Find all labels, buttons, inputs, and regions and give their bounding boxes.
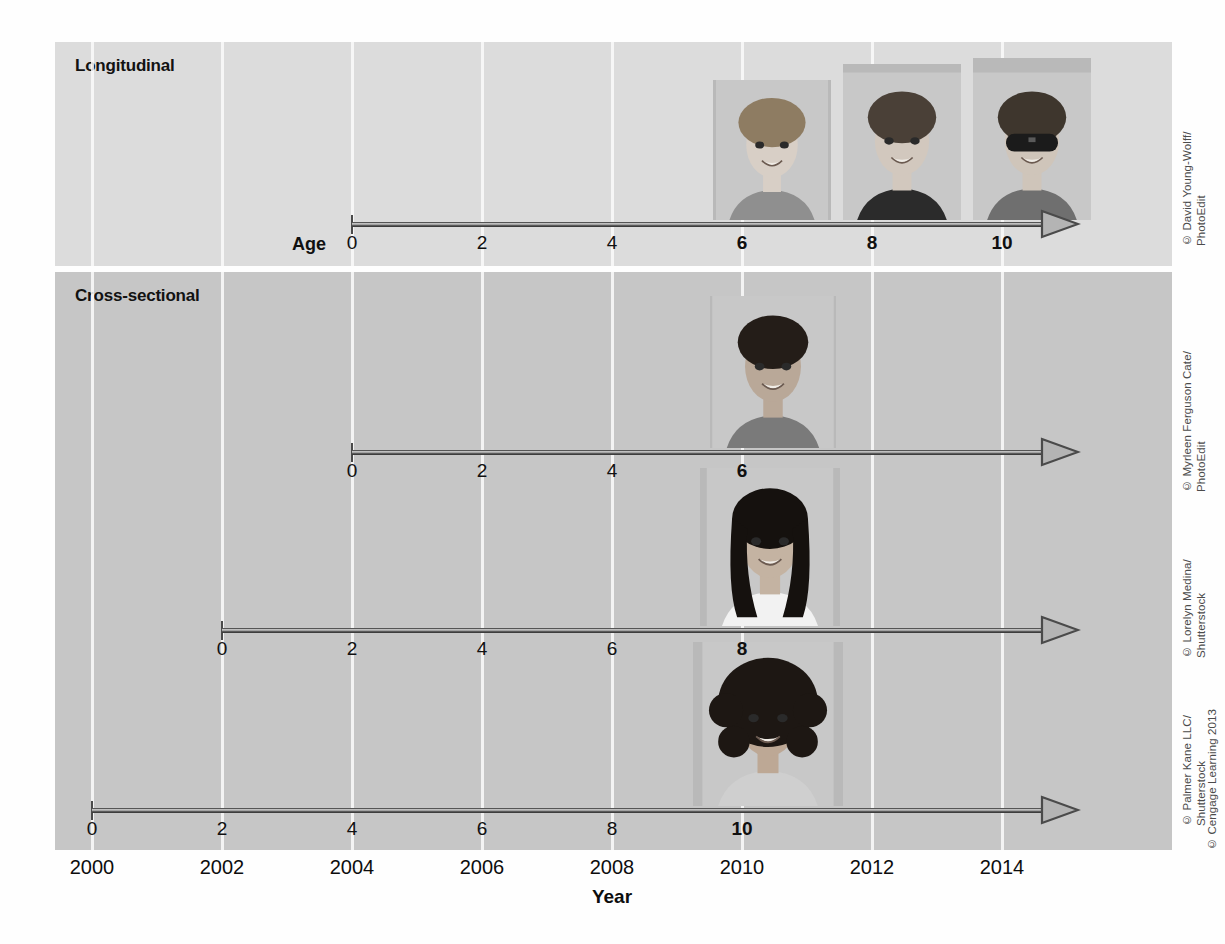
year-tick-2000: 2000 [70, 856, 115, 879]
figure-canvas: Longitudinal 0246810Age Cross-sectional … [0, 0, 1225, 944]
age-tick-8: 8 [867, 232, 878, 254]
gridline-year-2006 [481, 272, 484, 850]
credit-publisher: © Cengage Learning 2013 [1205, 680, 1219, 850]
timeline-arrow-icon [1039, 613, 1081, 647]
photo-child-a [710, 296, 836, 448]
timeline-2002 [222, 626, 1067, 635]
panel-cross-sectional: Cross-sectional 0246024680246810 [55, 272, 1172, 850]
year-tick-2006: 2006 [460, 856, 505, 879]
timeline-bar [352, 222, 1041, 227]
year-tick-2014: 2014 [980, 856, 1025, 879]
age-tick-0: 0 [347, 460, 358, 482]
year-tick-2002: 2002 [200, 856, 245, 879]
gridline-year-2004 [351, 272, 354, 850]
photo-child-b [700, 468, 840, 626]
age-tick-10: 10 [731, 818, 752, 840]
gridline-year-2000 [91, 272, 94, 850]
gridline-year-2008 [611, 272, 614, 850]
year-axis-title: Year [592, 886, 632, 908]
gridline-year-2014 [1001, 272, 1004, 850]
age-tick-2: 2 [477, 232, 488, 254]
age-tick-6: 6 [737, 232, 748, 254]
age-tick-4: 4 [477, 638, 488, 660]
photo-boy-8 [843, 64, 961, 220]
age-tick-6: 6 [607, 638, 618, 660]
age-tick-4: 4 [607, 232, 618, 254]
gridline-year-2002 [221, 42, 224, 266]
gridline-year-2002 [221, 272, 224, 850]
age-tick-2: 2 [477, 460, 488, 482]
photo-child-c [693, 642, 843, 806]
year-tick-2010: 2010 [720, 856, 765, 879]
timeline-2000 [92, 806, 1067, 815]
age-tick-10: 10 [991, 232, 1012, 254]
age-tick-0: 0 [217, 638, 228, 660]
age-tick-4: 4 [607, 460, 618, 482]
timeline-bar [222, 628, 1041, 633]
age-tick-6: 6 [737, 460, 748, 482]
age-tick-4: 4 [347, 818, 358, 840]
credit-cross-2: © Lorelyn Medina/ Shutterstock [1180, 508, 1209, 658]
gridline-year-2012 [871, 272, 874, 850]
credit-longitudinal: © David Young-Wolff/ PhotoEdit [1180, 96, 1209, 246]
age-tick-6: 6 [477, 818, 488, 840]
timeline-bar [352, 450, 1041, 455]
timeline-arrow-icon [1039, 207, 1081, 241]
panel-longitudinal: Longitudinal 0246810Age [55, 42, 1172, 266]
photo-boy-10 [973, 58, 1091, 220]
age-tick-2: 2 [217, 818, 228, 840]
age-tick-8: 8 [607, 818, 618, 840]
credit-cross-1: © Myrleen Ferguson Cate/ PhotoEdit [1180, 312, 1209, 492]
panel-longitudinal-heading: Longitudinal [75, 56, 175, 76]
age-tick-0: 0 [87, 818, 98, 840]
gridline-year-2000 [91, 42, 94, 266]
timeline-arrow-icon [1039, 435, 1081, 469]
age-tick-2: 2 [347, 638, 358, 660]
timeline-2004 [352, 220, 1067, 229]
age-tick-0: 0 [347, 232, 358, 254]
age-tick-8: 8 [737, 638, 748, 660]
photo-same-child [713, 80, 831, 220]
year-tick-2008: 2008 [590, 856, 635, 879]
timeline-2004 [352, 448, 1067, 457]
year-tick-2004: 2004 [330, 856, 375, 879]
timeline-bar [92, 808, 1041, 813]
age-axis-caption: Age [292, 234, 326, 255]
year-tick-2012: 2012 [850, 856, 895, 879]
year-axis: 20002002200420062008201020122014 Year [0, 856, 1225, 916]
timeline-arrow-icon [1039, 793, 1081, 827]
